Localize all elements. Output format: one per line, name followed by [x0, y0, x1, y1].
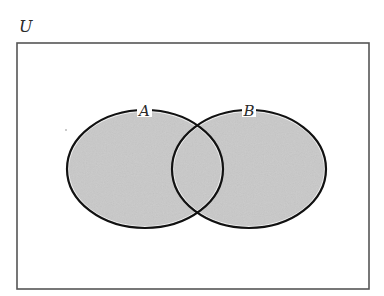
universe-label: U — [19, 17, 33, 36]
set-b-label: B — [242, 102, 254, 120]
set-a-label: A — [137, 102, 150, 120]
speck — [65, 129, 67, 131]
venn-diagram: U A B — [0, 0, 384, 296]
